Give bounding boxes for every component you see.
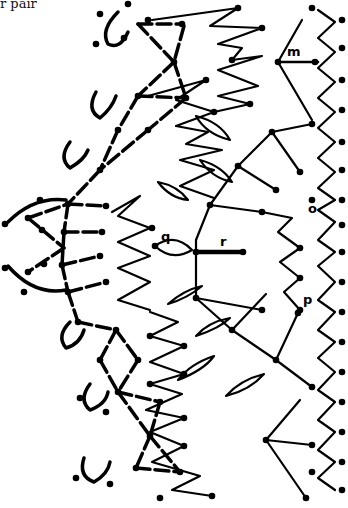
label-q: q [161,229,170,244]
label-p: p [303,292,312,307]
label-m: m [287,44,301,59]
label-o: o [308,201,317,216]
crochet-diagram: m o p q r [0,0,348,508]
label-r: r [220,234,227,249]
